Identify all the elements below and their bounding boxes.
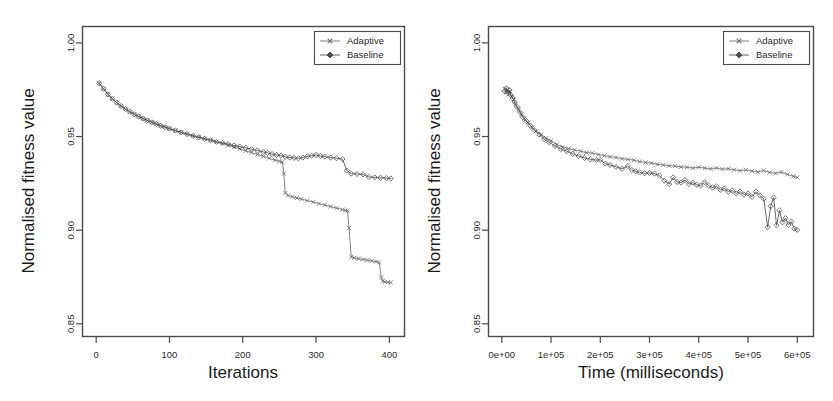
x-tick-label: 400: [381, 349, 397, 360]
legend-label: Baseline: [347, 49, 383, 60]
left-legend[interactable]: AdaptiveBaseline: [315, 32, 401, 65]
legend-label: Baseline: [756, 49, 792, 60]
marker-x: [267, 156, 271, 160]
figure-container: 0.850.900.951.00 0100200300400 AdaptiveB…: [0, 0, 833, 401]
y-tick-label: 0.95: [65, 127, 76, 146]
x-tick-label: 0: [94, 349, 99, 360]
chart-panel-right: 0.850.900.951.00 0e+001e+052e+053e+054e+…: [416, 0, 832, 401]
right-plot-frame: [489, 27, 814, 337]
x-tick-label: 0e+00: [488, 349, 515, 360]
left-x-axis-title: Iterations: [208, 363, 278, 382]
x-tick-label: 300: [308, 349, 324, 360]
series-baseline: [97, 81, 394, 182]
right-legend[interactable]: AdaptiveBaseline: [724, 32, 810, 65]
y-tick-label: 1.00: [65, 34, 76, 53]
series-path: [505, 88, 797, 230]
left-series-group: [97, 81, 394, 285]
x-tick-label: 4e+05: [685, 349, 712, 360]
marker-x: [249, 151, 253, 155]
right-chart-svg: 0.850.900.951.00 0e+001e+052e+053e+054e+…: [416, 0, 832, 401]
x-tick-label: 1e+05: [538, 349, 565, 360]
right-y-axis-title: Normalised fitness value: [425, 88, 444, 273]
left-plot-area: 0.850.900.951.00 0100200300400 AdaptiveB…: [19, 27, 405, 383]
right-y-axis-ticks: 0.850.900.951.00: [471, 34, 489, 333]
x-tick-label: 2e+05: [587, 349, 614, 360]
legend-label: Adaptive: [756, 35, 793, 46]
series-path: [99, 83, 391, 178]
x-tick-label: 3e+05: [636, 349, 663, 360]
x-tick-label: 6e+05: [784, 349, 811, 360]
series-adaptive: [97, 81, 393, 285]
left-x-axis-ticks: 0100200300400: [94, 336, 398, 360]
right-plot-area: 0.850.900.951.00 0e+001e+052e+053e+054e+…: [425, 27, 814, 383]
x-tick-label: 5e+05: [735, 349, 762, 360]
series-path: [99, 83, 391, 282]
y-tick-label: 0.90: [471, 221, 482, 240]
x-tick-label: 100: [162, 349, 178, 360]
right-series-group: [502, 86, 800, 233]
chart-panel-left: 0.850.900.951.00 0100200300400 AdaptiveB…: [0, 0, 416, 401]
series-baseline: [502, 86, 800, 233]
legend-label: Adaptive: [347, 35, 384, 46]
marker-x: [785, 172, 789, 176]
y-tick-label: 1.00: [471, 34, 482, 53]
right-x-axis-title: Time (milliseconds): [578, 363, 724, 382]
left-y-axis-ticks: 0.850.900.951.00: [65, 34, 83, 333]
y-tick-label: 0.85: [65, 315, 76, 334]
y-tick-label: 0.85: [471, 315, 482, 334]
left-y-axis-title: Normalised fitness value: [19, 88, 38, 273]
left-chart-svg: 0.850.900.951.00 0100200300400 AdaptiveB…: [0, 0, 416, 401]
right-x-axis-ticks: 0e+001e+052e+053e+054e+055e+056e+05: [488, 336, 810, 360]
y-tick-label: 0.95: [471, 127, 482, 146]
y-tick-label: 0.90: [65, 221, 76, 240]
x-tick-label: 200: [235, 349, 251, 360]
left-plot-frame: [83, 27, 405, 337]
series-adaptive: [503, 87, 800, 180]
